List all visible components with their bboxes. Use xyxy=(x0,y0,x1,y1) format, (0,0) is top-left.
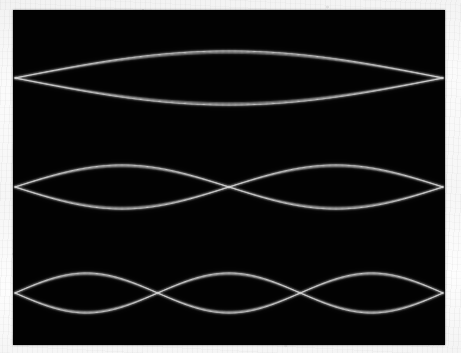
plate-background xyxy=(13,10,445,345)
photographic-plate xyxy=(13,10,445,345)
screenshot-root: Three time-exposure photographs of a vib… xyxy=(0,0,461,353)
standing-waves-figure xyxy=(13,10,445,345)
